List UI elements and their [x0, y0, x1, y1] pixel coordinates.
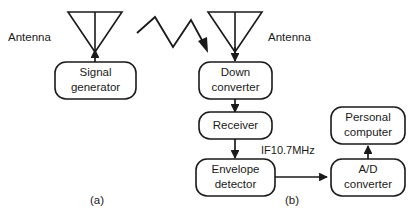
block-signal-generator: Signal generator [55, 62, 136, 99]
block-envelope-detector: Envelope detector [196, 159, 275, 196]
caption-a: (a) [90, 194, 104, 206]
block-signal-generator-line1: Signal [80, 66, 112, 78]
if-frequency-label: IF10.7MHz [261, 144, 315, 156]
diagram-canvas: Antenna Signal generator (a) Antenna [0, 0, 417, 224]
block-down-converter-line2: converter [212, 81, 260, 93]
block-ad-converter-line2: converter [344, 178, 392, 190]
block-envelope-detector-line2: detector [215, 178, 257, 190]
block-down-converter-line1: Down [221, 66, 250, 78]
block-personal-computer-line2: computer [344, 126, 392, 138]
antenna-label-right: Antenna [268, 31, 311, 43]
block-personal-computer: Personal computer [331, 107, 405, 144]
block-ad-converter-line1: A/D [358, 163, 377, 175]
block-receiver: Receiver [199, 112, 272, 139]
block-diagram-figure: Antenna Signal generator (a) Antenna [0, 0, 417, 224]
antenna-triangle-icon-left [68, 12, 122, 56]
block-envelope-detector-line1: Envelope [212, 163, 260, 175]
block-ad-converter: A/D converter [331, 159, 405, 196]
antenna-label-left: Antenna [8, 31, 51, 43]
block-personal-computer-line1: Personal [345, 111, 390, 123]
caption-b: (b) [285, 194, 299, 206]
block-receiver-line1: Receiver [213, 119, 259, 131]
block-down-converter: Down converter [199, 62, 272, 99]
block-signal-generator-line2: generator [71, 81, 120, 93]
zigzag-arrowhead [198, 37, 208, 53]
zigzag-wave-arrow-icon [137, 17, 208, 53]
